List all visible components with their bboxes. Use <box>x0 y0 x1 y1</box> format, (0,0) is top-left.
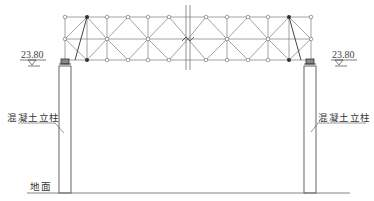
concrete-columns <box>59 66 316 193</box>
elevation-label-right: 23.80 <box>332 50 355 60</box>
bearing-left <box>59 59 71 64</box>
diagonals-left <box>65 17 188 60</box>
bearing-right <box>304 59 316 64</box>
elevation-marker-left <box>20 60 46 66</box>
truss-gantry-diagram <box>0 0 374 201</box>
diagonals-right <box>188 17 311 60</box>
column-right <box>304 66 316 193</box>
leader-lines <box>18 123 366 133</box>
column-label-right: 混凝土立柱 <box>318 113 371 123</box>
elevation-label-left: 23.80 <box>21 50 44 60</box>
ground-label: 地面 <box>30 182 51 192</box>
elevation-marker-right <box>331 60 357 66</box>
column-label-left: 混凝土立柱 <box>7 113 60 123</box>
